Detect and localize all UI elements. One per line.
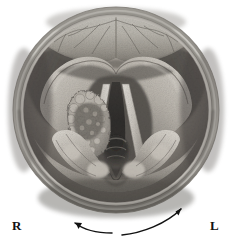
figure-container: R L — [0, 0, 233, 245]
left-curved-arrow — [75, 223, 112, 234]
larynx-illustration — [0, 0, 233, 245]
label-left-side: L — [210, 219, 219, 232]
label-right-side: R — [12, 219, 21, 232]
left-arrowhead — [76, 223, 83, 230]
